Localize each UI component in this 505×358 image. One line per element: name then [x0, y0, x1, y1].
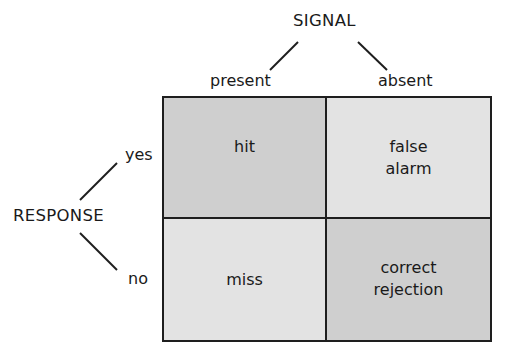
row-header-no: no [128, 270, 148, 288]
column-header-present: present [210, 72, 271, 90]
row-header-yes: yes [125, 146, 153, 164]
signal-present-connector [270, 42, 298, 70]
cell-false-alarm-label-line1: false [386, 136, 432, 158]
response-yes-connector [80, 163, 117, 200]
cell-correct-rejection-label-line2: rejection [374, 279, 444, 301]
cell-miss-label: miss [226, 269, 263, 291]
cell-hit-label: hit [234, 136, 255, 158]
cell-correct-rejection-label-line1: correct [374, 257, 444, 279]
cell-false-alarm-label-line2: alarm [386, 158, 432, 180]
column-header-absent: absent [378, 72, 433, 90]
signal-absent-connector [358, 42, 387, 70]
cell-miss: miss [164, 219, 327, 340]
response-title: RESPONSE [13, 207, 104, 225]
response-no-connector [80, 233, 117, 270]
signal-title: SIGNAL [293, 12, 356, 30]
cell-false-alarm: false alarm [327, 98, 490, 219]
cell-hit: hit [164, 98, 327, 219]
cell-correct-rejection: correct rejection [327, 219, 490, 340]
signal-detection-matrix: hit false alarm miss correct rejection [162, 96, 492, 342]
